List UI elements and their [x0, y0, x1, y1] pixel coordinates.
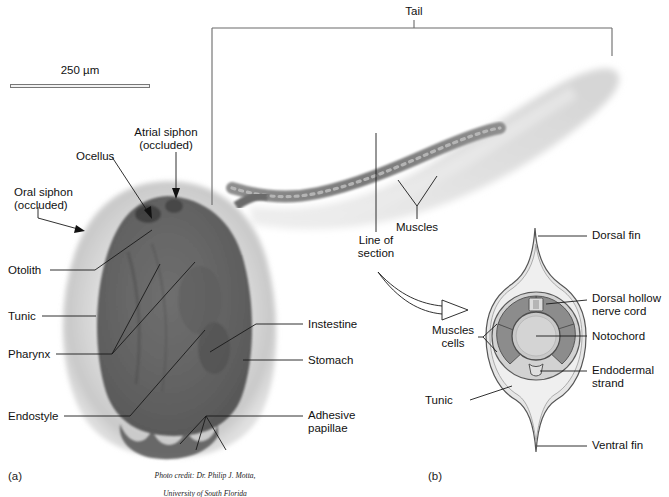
label-notochord: Notochord	[592, 330, 645, 343]
label-otolith: Otolith	[8, 264, 41, 277]
scale-bar	[10, 84, 150, 88]
label-intestine: Instestine	[308, 318, 357, 331]
label-pharynx: Pharynx	[8, 348, 50, 361]
trunk-tail-junction	[236, 195, 268, 206]
label-adhesive-papillae: Adhesive papillae	[308, 409, 355, 435]
tail-fin-photo	[250, 69, 619, 230]
photo-credit: Photo credit: Dr. Philip J. Motta, Unive…	[120, 462, 290, 497]
label-ocellus: Ocellus	[76, 150, 114, 163]
photo-credit-line1: Photo credit: Dr. Philip J. Motta,	[155, 471, 256, 480]
label-line-of-section: Line of section	[335, 234, 417, 260]
label-tail-bracket: Tail	[388, 5, 440, 18]
photo-credit-line2: University of South Florida	[163, 489, 247, 497]
label-tunic: Tunic	[8, 310, 36, 323]
cross-section-diagram	[486, 228, 586, 452]
label-dorsal-fin: Dorsal fin	[592, 229, 641, 242]
label-muscles-tail: Muscles	[387, 221, 447, 234]
scale-bar-label: 250 µm	[10, 64, 150, 76]
panel-label-a: (a)	[8, 470, 22, 482]
leader-lines-panel-b	[470, 236, 587, 446]
label-atrial-siphon: Atrial siphon (occluded)	[110, 126, 222, 152]
label-endostyle: Endostyle	[8, 410, 59, 423]
panel-label-b: (b)	[428, 470, 442, 482]
tunic-photo	[64, 182, 275, 456]
larva-body-photo	[97, 196, 252, 459]
label-stomach: Stomach	[308, 354, 353, 367]
label-dorsal-hollow-nerve-cord: Dorsal hollow nerve cord	[592, 292, 661, 318]
tail-notochord-photo	[232, 128, 500, 197]
head-halo	[66, 188, 258, 448]
label-muscle-cells: Muscles cells	[425, 324, 481, 350]
label-tunic-section: Tunic	[425, 394, 453, 407]
label-endodermal-strand: Endodermal strand	[592, 364, 654, 390]
figure-root: 250 µm Atrial siphon (occluded) Ocellus …	[0, 0, 669, 497]
label-ventral-fin: Ventral fin	[592, 439, 643, 452]
label-oral-siphon: Oral siphon (occluded)	[14, 186, 73, 212]
